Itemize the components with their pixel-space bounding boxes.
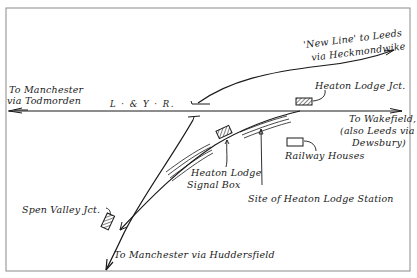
label-wakefield-dewsbury: Dewsbury) [352, 137, 406, 148]
label-manchester-todmorden: To Manchester [9, 84, 83, 95]
label-manchester-todmorden-via: via Todmorden [7, 95, 81, 106]
railway-houses-box [287, 138, 303, 146]
label-spen-valley-jct: Spen Valley Jct. [22, 204, 100, 215]
label-signal-box-2: Signal Box [187, 179, 241, 190]
label-heaton-lodge-jct: Heaton Lodge Jct. [315, 80, 405, 91]
label-wakefield-leeds: (also Leeds via [340, 125, 415, 136]
label-lyr: L · & Y · R. [110, 99, 175, 110]
heaton-lodge-jct-box [296, 98, 312, 105]
label-signal-box: Heaton Lodge [191, 167, 261, 178]
label-manchester-huddersfield: To Manchester via Huddersfield [114, 249, 275, 260]
label-railway-houses: Railway Houses [285, 150, 365, 161]
label-station-site: Site of Heaton Lodge Station [248, 193, 394, 204]
railway-diagram: 'New Line' to Leeds via Heckmondwike To … [0, 0, 417, 278]
label-wakefield: To Wakefield, [349, 113, 416, 124]
